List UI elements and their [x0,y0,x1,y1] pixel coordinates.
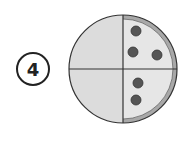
pizza-fraction-diagram [0,0,190,142]
topping-dot [131,26,141,36]
topping-dot [152,50,162,60]
topping-dot [133,78,143,88]
topping-dot [128,47,138,57]
topping-dot [131,95,141,105]
